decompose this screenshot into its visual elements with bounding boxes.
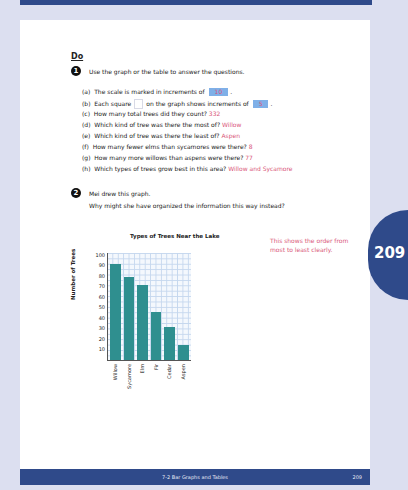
y-tick: 20 <box>93 336 105 342</box>
y-tick: 60 <box>93 294 105 300</box>
chart-title: Types of Trees Near the Lake <box>130 233 219 239</box>
q1-item-e: (e) Which kind of tree was there the lea… <box>82 132 240 139</box>
answer: 332 <box>209 110 220 117</box>
x-tick-label: Elm <box>139 364 145 394</box>
x-tick-label: Cedar <box>166 364 172 394</box>
q1-item-c: (c) How many total trees did they count?… <box>82 110 220 117</box>
y-tick: 50 <box>93 304 105 310</box>
q2-line2: Why might she have organized the informa… <box>89 202 285 209</box>
answer-box[interactable]: 5 <box>253 100 269 108</box>
question-number-1: 1 <box>71 66 81 76</box>
q1-item-f: (f) How many fewer elms than sycamores w… <box>82 143 253 150</box>
top-band <box>20 0 372 5</box>
q1-item-g: (g) How many more willows than aspens we… <box>82 154 253 161</box>
bar-sycamore <box>124 277 135 360</box>
y-tick: 40 <box>93 315 105 321</box>
y-tick: 30 <box>93 325 105 331</box>
y-axis <box>107 253 108 361</box>
q1-item-b: (b) Each squareon the graph shows increm… <box>82 99 272 109</box>
q1-item-h: (h) Which types of trees grow best in th… <box>82 165 293 172</box>
x-tick-label: Willow <box>112 364 118 394</box>
y-tick: 100 <box>93 252 105 258</box>
bar-willow <box>110 264 121 360</box>
y-axis-label: Number of Trees <box>70 249 76 300</box>
bar-cedar <box>164 327 175 360</box>
section-heading: Do <box>71 52 83 61</box>
q1-item-a: (a) The scale is marked in increments of… <box>82 88 232 96</box>
x-tick-label: Aspen <box>180 364 186 394</box>
square-sample <box>134 99 143 109</box>
q2-line1: Mei drew this graph. <box>89 190 150 197</box>
answer-box[interactable]: 10 <box>209 88 229 96</box>
q2-answer: This shows the order from most to least … <box>270 236 360 254</box>
x-axis <box>107 360 191 361</box>
q1-prompt: Use the graph or the table to answer the… <box>89 68 244 75</box>
y-tick: 80 <box>93 273 105 279</box>
footer: 7-2 Bar Graphs and Tables 209 <box>20 469 370 485</box>
y-tick: 90 <box>93 262 105 268</box>
x-tick-label: Fir <box>153 364 159 394</box>
footer-lesson: 7-2 Bar Graphs and Tables <box>20 474 370 480</box>
q1-item-d: (d) Which kind of tree was there the mos… <box>82 121 241 128</box>
question-number-2: 2 <box>71 188 81 198</box>
bar-elm <box>137 285 148 360</box>
bar-chart: 102030405060708090100WillowSycamoreElmFi… <box>107 253 191 361</box>
page-tab: 209 <box>368 210 408 300</box>
bar-fir <box>151 312 162 360</box>
bar-aspen <box>178 345 189 360</box>
x-tick-label: Sycamore <box>126 364 132 394</box>
y-tick: 70 <box>93 283 105 289</box>
footer-page-number: 209 <box>352 474 362 480</box>
y-tick: 10 <box>93 346 105 352</box>
